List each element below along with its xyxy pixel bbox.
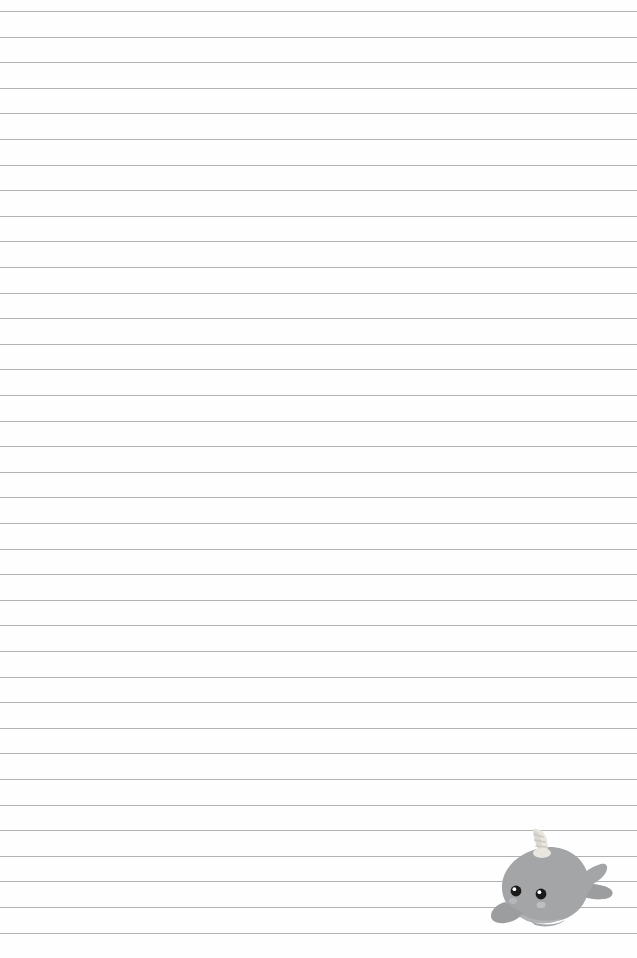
ruled-line bbox=[0, 625, 637, 626]
ruled-line bbox=[0, 318, 637, 319]
ruled-line bbox=[0, 549, 637, 550]
ruled-line bbox=[0, 574, 637, 575]
ruled-line bbox=[0, 523, 637, 524]
left-cheek-icon bbox=[509, 898, 517, 904]
ruled-line bbox=[0, 62, 637, 63]
ruled-line bbox=[0, 472, 637, 473]
ruled-line bbox=[0, 753, 637, 754]
ruled-line bbox=[0, 190, 637, 191]
ruled-line bbox=[0, 395, 637, 396]
ruled-line bbox=[0, 446, 637, 447]
ruled-line bbox=[0, 805, 637, 806]
ruled-line bbox=[0, 139, 637, 140]
ruled-line bbox=[0, 344, 637, 345]
ruled-line bbox=[0, 267, 637, 268]
narwhal-illustration bbox=[489, 828, 621, 932]
ruled-line bbox=[0, 651, 637, 652]
ruled-line bbox=[0, 600, 637, 601]
ruled-line bbox=[0, 165, 637, 166]
right-eye-icon bbox=[536, 889, 547, 900]
ruled-line bbox=[0, 113, 637, 114]
ruled-line bbox=[0, 216, 637, 217]
ruled-line bbox=[0, 933, 637, 934]
ruled-line bbox=[0, 293, 637, 294]
ruled-line bbox=[0, 497, 637, 498]
ruled-line bbox=[0, 37, 637, 38]
ruled-line bbox=[0, 779, 637, 780]
ruled-line bbox=[0, 369, 637, 370]
ruled-line bbox=[0, 241, 637, 242]
right-cheek-icon bbox=[537, 902, 546, 908]
ruled-line bbox=[0, 677, 637, 678]
lined-paper-page bbox=[0, 0, 637, 958]
ruled-line bbox=[0, 88, 637, 89]
ruled-line bbox=[0, 702, 637, 703]
left-eye-icon bbox=[511, 886, 522, 897]
tusk-icon bbox=[533, 829, 551, 858]
ruled-line bbox=[0, 421, 637, 422]
ruled-line bbox=[0, 728, 637, 729]
ruled-lines-group bbox=[0, 0, 637, 958]
ruled-line bbox=[0, 11, 637, 12]
